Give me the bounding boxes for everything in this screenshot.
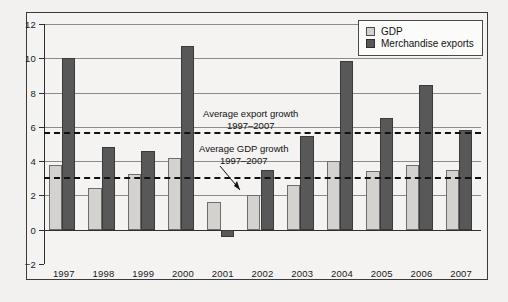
y-axis-tick: [39, 264, 44, 265]
y-axis-tick-label: 0: [31, 224, 36, 235]
legend-label-merchandise-exports: Merchandise exports: [381, 38, 474, 49]
annotation-average-gdp-growth-line1: Average GDP growth: [199, 143, 288, 154]
bar-gdp-2006: [406, 165, 419, 230]
reference-line-avg-export: [44, 132, 481, 134]
y-axis-tick-label: 4: [31, 156, 36, 167]
x-axis-label-2005: 2005: [371, 268, 393, 279]
chart-canvas: 121086420−2 1997199819992000200120022003…: [0, 0, 508, 302]
x-axis-label-2003: 2003: [291, 268, 313, 279]
legend-label-gdp: GDP: [381, 26, 403, 37]
bar-group: [84, 24, 124, 264]
bar-group: [123, 24, 163, 264]
reference-line-avg-gdp: [44, 177, 481, 179]
bar-merchandise-exports-1999: [141, 151, 154, 230]
y-axis-tick-label: 6: [31, 121, 36, 132]
x-axis-label-2007: 2007: [450, 268, 472, 279]
annotation-average-gdp-growth: Average GDP growth 1997–2007: [199, 143, 288, 166]
bar-gdp-2001: [207, 202, 220, 229]
bar-merchandise-exports-2006: [419, 85, 432, 230]
bar-gdp-2000: [168, 158, 181, 230]
bar-group: [362, 24, 402, 264]
bar-group: [441, 24, 481, 264]
x-axis-label-2001: 2001: [212, 268, 234, 279]
x-axis-label-2002: 2002: [252, 268, 274, 279]
x-axis-label-2000: 2000: [172, 268, 194, 279]
x-axis-label-1998: 1998: [93, 268, 115, 279]
y-axis-tick-label: 12: [25, 19, 36, 30]
y-axis-tick-label: −2: [25, 259, 36, 270]
bar-group: [402, 24, 442, 264]
legend-swatch-gdp: [366, 27, 375, 36]
bar-merchandise-exports-2007: [459, 130, 472, 229]
bar-merchandise-exports-2000: [181, 46, 194, 229]
bar-gdp-2003: [287, 185, 300, 230]
chart-legend: GDP Merchandise exports: [358, 20, 483, 56]
x-axis-label-2004: 2004: [331, 268, 353, 279]
x-axis-label-1999: 1999: [132, 268, 154, 279]
bar-gdp-2005: [366, 171, 379, 229]
annotation-average-gdp-growth-line2: 1997–2007: [199, 155, 288, 167]
bar-merchandise-exports-2004: [340, 61, 353, 230]
legend-swatch-merchandise-exports: [366, 39, 375, 48]
bar-group: [44, 24, 84, 264]
bar-gdp-2002: [247, 195, 260, 229]
bar-gdp-1998: [88, 188, 101, 230]
bar-merchandise-exports-2001: [221, 230, 234, 237]
legend-item-gdp: GDP: [366, 26, 474, 37]
x-axis-label-1997: 1997: [53, 268, 75, 279]
annotation-average-export-growth-line1: Average export growth: [203, 108, 298, 119]
bar-merchandise-exports-2003: [300, 136, 313, 229]
x-axis-labels: 1997199819992000200120022003200420052006…: [44, 268, 481, 284]
bar-merchandise-exports-1998: [102, 147, 115, 229]
bar-merchandise-exports-1997: [62, 58, 75, 229]
bar-gdp-1999: [128, 174, 141, 230]
bar-merchandise-exports-2005: [380, 118, 393, 229]
bar-gdp-2004: [327, 161, 340, 230]
bar-group: [163, 24, 203, 264]
bar-gdp-1997: [49, 165, 62, 230]
annotation-average-export-growth-line2: 1997–2007: [203, 120, 298, 132]
y-axis-tick-label: 8: [31, 87, 36, 98]
annotation-leader-line: [218, 166, 258, 196]
y-axis-tick-label: 10: [25, 53, 36, 64]
x-axis-label-2006: 2006: [410, 268, 432, 279]
annotation-average-export-growth: Average export growth 1997–2007: [203, 108, 298, 131]
legend-item-merchandise-exports: Merchandise exports: [366, 38, 474, 49]
bar-group: [322, 24, 362, 264]
y-axis-tick-label: 2: [31, 190, 36, 201]
